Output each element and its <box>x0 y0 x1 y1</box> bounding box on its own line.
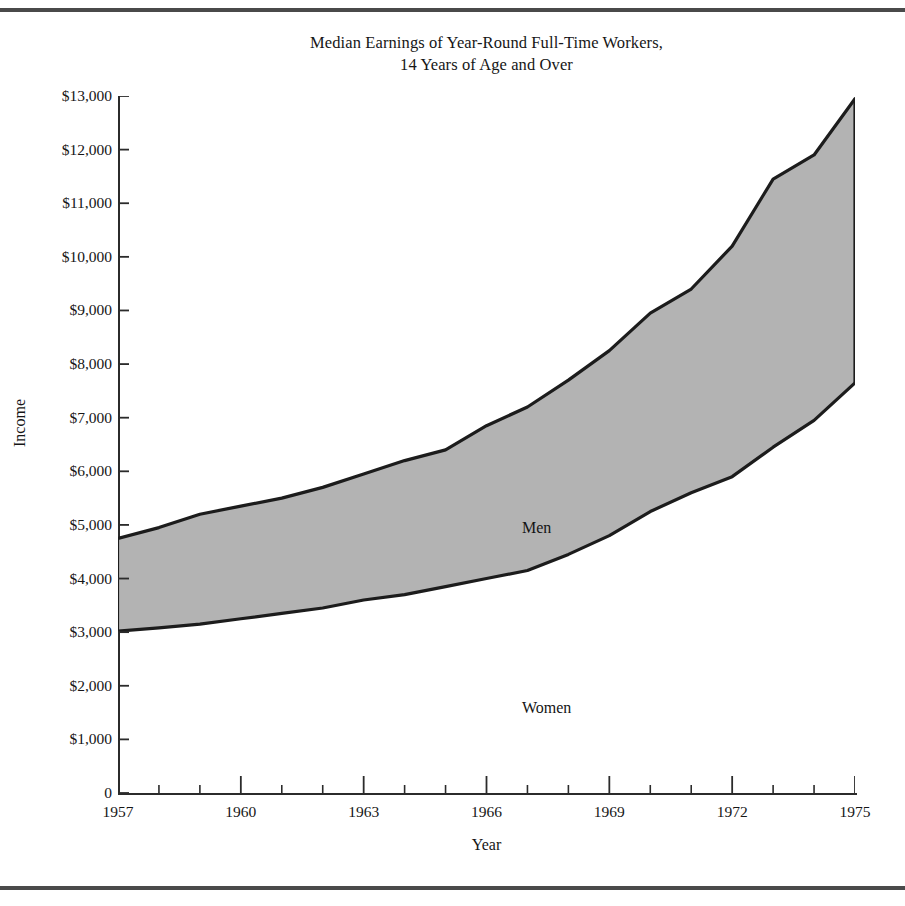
y-axis-tick-marks <box>118 96 129 793</box>
page-rule-top <box>0 8 905 12</box>
x-axis-line <box>118 793 857 795</box>
y-axis-tick-label: $9,000 <box>26 301 112 319</box>
x-axis-tick-label: 1972 <box>717 803 748 821</box>
x-axis-tick-labels: 1957196019631966196919721975 <box>118 803 855 831</box>
x-axis-tick-label: 1960 <box>225 803 256 821</box>
area-chart-svg <box>118 96 855 793</box>
chart-title-line-1: Median Earnings of Year-Round Full-Time … <box>310 33 663 52</box>
chart-title-line-2: 14 Years of Age and Over <box>118 54 855 76</box>
chart-title: Median Earnings of Year-Round Full-Time … <box>118 32 855 77</box>
y-axis-tick-label: 0 <box>26 784 112 802</box>
page-rule-bottom <box>0 886 905 890</box>
y-axis-tick-label: $3,000 <box>26 623 112 641</box>
y-axis-tick-label: $11,000 <box>26 194 112 212</box>
y-axis-tick-label: $12,000 <box>26 141 112 159</box>
x-axis-tick-label: 1963 <box>348 803 379 821</box>
y-axis-tick-label: $6,000 <box>26 462 112 480</box>
y-axis-tick-label: $10,000 <box>26 248 112 266</box>
y-axis-title: Income <box>11 399 29 447</box>
y-axis-tick-label: $2,000 <box>26 677 112 695</box>
x-axis-tick-label: 1975 <box>840 803 871 821</box>
x-axis-tick-label: 1966 <box>471 803 502 821</box>
x-axis-tick-label: 1969 <box>594 803 625 821</box>
chart-figure: Median Earnings of Year-Round Full-Time … <box>0 14 905 882</box>
y-axis-tick-label: $7,000 <box>26 409 112 427</box>
x-axis-tick-marks <box>118 776 855 793</box>
series-label-women: Women <box>522 699 571 717</box>
y-axis-tick-label: $4,000 <box>26 570 112 588</box>
series-label-men: Men <box>522 519 551 537</box>
x-axis-title: Year <box>118 836 855 854</box>
x-axis-tick-label: 1957 <box>103 803 134 821</box>
y-axis-tick-label: $8,000 <box>26 355 112 373</box>
men-women-gap-fill <box>118 99 855 631</box>
y-axis-tick-label: $5,000 <box>26 516 112 534</box>
y-axis-tick-label: $13,000 <box>26 87 112 105</box>
y-axis-tick-label: $1,000 <box>26 730 112 748</box>
plot-area: Men Women <box>118 96 855 793</box>
